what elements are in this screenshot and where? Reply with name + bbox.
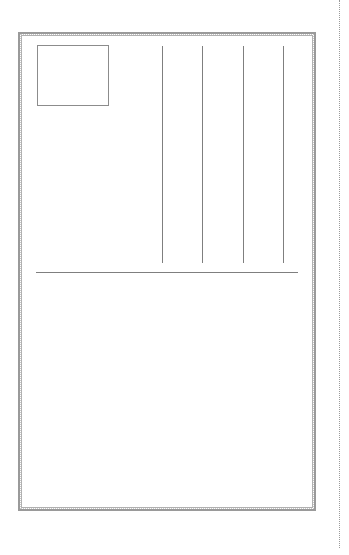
address-line bbox=[283, 46, 284, 263]
stamp-box bbox=[37, 45, 109, 106]
address-line bbox=[162, 46, 163, 263]
address-line bbox=[202, 46, 203, 263]
address-line bbox=[243, 46, 244, 263]
cut-guide-line bbox=[339, 0, 340, 548]
section-divider-line bbox=[36, 272, 298, 273]
